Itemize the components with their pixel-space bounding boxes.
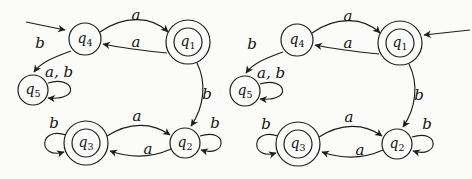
edge-label-q1-q2: b — [202, 85, 212, 103]
edge-q1-q2 — [191, 63, 203, 126]
edge-q2-q3 — [110, 149, 171, 156]
edge-label-q4-q5: b — [35, 34, 45, 52]
edge-label-q2-q3: a — [356, 141, 365, 159]
automaton-right: a a b a, b b a a b b q4 q1 q5 q3 q2 — [230, 7, 470, 166]
state-q4: q4 — [69, 23, 101, 55]
edge-label-q1-q4: a — [344, 34, 353, 52]
edge-q5-selfloop — [260, 82, 283, 99]
edge-q3-selfloop — [45, 133, 66, 153]
edge-label-q4-q1: a — [344, 7, 353, 25]
edge-label-q3-selfloop: b — [49, 114, 59, 132]
edge-label-q4-q5: b — [247, 35, 257, 53]
state-q3-accepting: q3 — [276, 122, 320, 166]
svg-text:q4: q4 — [77, 30, 92, 48]
edge-q3-selfloop — [257, 134, 278, 154]
svg-text:q2: q2 — [389, 135, 404, 153]
start-arrow-q4 — [26, 22, 65, 30]
state-q5: q5 — [230, 76, 260, 106]
svg-text:q1: q1 — [392, 34, 407, 52]
edge-q2-selfloop — [412, 135, 433, 152]
state-q3-accepting: q3 — [64, 121, 108, 165]
state-q1-accepting: q1 — [166, 20, 210, 64]
edge-q2-selfloop — [200, 134, 221, 151]
edge-label-q1-q2: b — [414, 86, 424, 104]
state-q2: q2 — [170, 128, 200, 158]
edge-label-q3-q2: a — [133, 107, 142, 125]
edge-label-q3-selfloop: b — [261, 115, 271, 133]
state-q1-accepting: q1 — [378, 21, 422, 65]
svg-text:q4: q4 — [289, 31, 304, 49]
svg-text:q3: q3 — [290, 135, 305, 153]
edge-q5-selfloop — [48, 81, 71, 98]
automata-canvas: a a b a, b b a a b b q4 q1 q5 q3 q2 — [0, 0, 472, 179]
state-q2: q2 — [382, 129, 412, 159]
edge-label-q2-q3: a — [144, 140, 153, 158]
edge-label-q5-selfloop: a, b — [257, 64, 285, 82]
state-q4: q4 — [281, 24, 313, 56]
edge-label-q2-selfloop: b — [210, 114, 220, 132]
edge-label-q1-q4: a — [132, 33, 141, 51]
edge-q3-q2 — [107, 125, 170, 136]
svg-text:q1: q1 — [180, 33, 195, 51]
edge-q3-q2 — [319, 126, 382, 137]
svg-text:q2: q2 — [177, 134, 192, 152]
automaton-left: a a b a, b b a a b b q4 q1 q5 q3 q2 — [18, 6, 221, 165]
automata-figure: a a b a, b b a a b b q4 q1 q5 q3 q2 — [0, 0, 472, 179]
start-arrow-q1 — [424, 30, 470, 35]
svg-text:q5: q5 — [25, 81, 40, 99]
edge-q2-q3 — [322, 150, 383, 157]
svg-text:q5: q5 — [237, 82, 252, 100]
edge-label-q4-q1: a — [132, 6, 141, 24]
state-q5: q5 — [18, 75, 48, 105]
edge-label-q3-q2: a — [345, 108, 354, 126]
edge-label-q2-selfloop: b — [422, 115, 432, 133]
svg-text:q3: q3 — [78, 134, 93, 152]
edge-label-q5-selfloop: a, b — [45, 63, 73, 81]
edge-q1-q2 — [403, 64, 415, 127]
